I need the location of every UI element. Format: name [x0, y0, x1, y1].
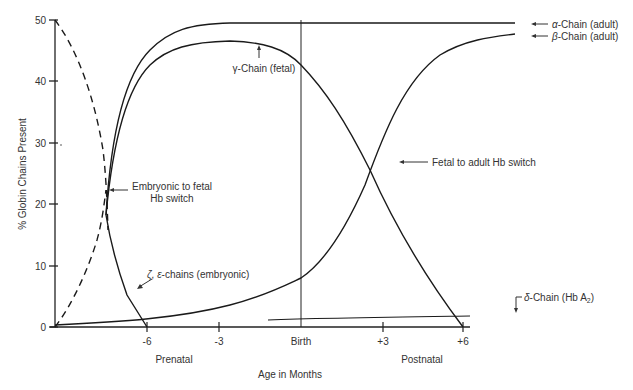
x-axis-title: Age in Months [258, 369, 322, 380]
delta-chain-curve [268, 316, 470, 320]
delta-label: -Chain (Hb A [530, 292, 588, 303]
globin-chain-chart: 50 40 30 20 10 0 % Globin Chains Present… [0, 0, 633, 390]
svg-text:α-Chain (adult): α-Chain (adult) [552, 19, 618, 30]
x-axis [50, 322, 470, 332]
embryonic-solid-decline [106, 215, 147, 327]
svg-text:γ-Chain (fetal): γ-Chain (fetal) [233, 63, 296, 74]
zeta-symbol: ζ, ε [147, 269, 162, 281]
embryonic-switch-line1: Embryonic to fetal [132, 181, 212, 192]
annotations: α-Chain (adult) β-Chain (adult) γ-Chain … [109, 19, 618, 313]
embryonic-dashed-falling [55, 20, 108, 230]
x-tick--3: -3 [215, 336, 224, 347]
x-tick--6: -6 [143, 336, 152, 347]
beta-annotation: β-Chain (adult) [531, 31, 618, 42]
alpha-label: -Chain (adult) [558, 19, 619, 30]
gamma-label: -Chain (fetal) [238, 63, 296, 74]
postnatal-label: Postnatal [401, 354, 443, 365]
embryonic-switch-line2: Hb switch [150, 193, 193, 204]
x-tick-birth: Birth [291, 336, 312, 347]
delta-annotation: δ-Chain (Hb A2) [514, 292, 594, 313]
gamma-annotation: γ-Chain (fetal) [233, 45, 296, 74]
prenatal-label: Prenatal [155, 354, 192, 365]
beta-label: -Chain (adult) [558, 31, 619, 42]
zeta-epsilon-annotation: ζ, ε-chains (embryonic) [137, 269, 249, 289]
y-axis [49, 20, 58, 327]
fetal-switch-label: Fetal to adult Hb switch [432, 157, 536, 168]
svg-text:ζ, ε-chains (embryonic): ζ, ε-chains (embryonic) [147, 269, 249, 281]
y-axis-title: % Globin Chains Present [17, 118, 28, 230]
y-tick-50: 50 [35, 15, 47, 26]
y-tick-40: 40 [35, 76, 47, 87]
x-tick-labels: -6 -3 Birth +3 +6 [143, 336, 470, 347]
x-tick-+3: +3 [377, 336, 389, 347]
fetal-switch-annotation: Fetal to adult Hb switch [399, 157, 536, 168]
y-tick-30: 30 [35, 138, 47, 149]
x-tick-+6: +6 [457, 336, 469, 347]
beta-chain-curve [55, 34, 515, 325]
embryonic-dashed-rising [55, 190, 106, 327]
alpha-annotation: α-Chain (adult) [531, 19, 618, 30]
y-tick-20: 20 [35, 199, 47, 210]
y-tick-0: 0 [40, 322, 46, 333]
delta-close: ) [591, 292, 594, 303]
embryonic-switch-annotation: Embryonic to fetal Hb switch [109, 181, 212, 204]
svg-text:δ-Chain (Hb A2): δ-Chain (Hb A2) [524, 292, 594, 304]
stray-dot [60, 144, 62, 146]
y-tick-labels: 50 40 30 20 10 0 [35, 15, 47, 333]
svg-text:β-Chain (adult): β-Chain (adult) [551, 31, 618, 42]
y-tick-10: 10 [35, 261, 47, 272]
zeta-label: -chains (embryonic) [162, 269, 250, 280]
